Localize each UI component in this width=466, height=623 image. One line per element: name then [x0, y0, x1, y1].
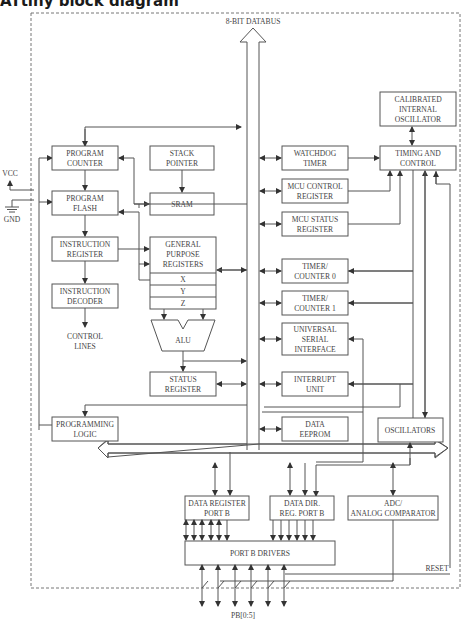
block-label: LOGIC — [73, 430, 96, 439]
block-label: CALIBRATED — [394, 95, 442, 104]
block-label: STACK — [170, 149, 195, 158]
block-label: GENERAL — [165, 240, 201, 249]
port-data-arrows — [186, 520, 313, 540]
block-label: POINTER — [166, 159, 199, 168]
block-label: REGISTER — [67, 250, 104, 259]
block-label: PORT B DRIVERS — [230, 549, 290, 558]
block-label: CONTROL — [400, 159, 436, 168]
block-label: REGISTERS — [163, 260, 204, 269]
block-label: WATCHDOG — [294, 149, 337, 158]
block-label: DATA DIR. — [284, 499, 320, 508]
block-label: REGISTER — [297, 192, 334, 201]
block-label: INTERFACE — [294, 345, 336, 354]
databus-horizontal — [98, 440, 448, 457]
block-label: UNIT — [306, 385, 324, 394]
block-label: FLASH — [73, 204, 98, 213]
block-label: OSCILLATOR — [395, 115, 442, 124]
block-label: ADC/ — [384, 499, 403, 508]
block-label: REG. PORT B — [280, 509, 325, 518]
vcc-pin: VCC — [2, 169, 34, 190]
block-label: LINES — [74, 342, 96, 351]
block-label: COUNTER — [67, 159, 104, 168]
block-label: TIMING AND — [395, 149, 441, 158]
block-label: INTERNAL — [399, 105, 437, 114]
block-label: DATA — [305, 420, 325, 429]
block-label: TIMER/ — [302, 294, 329, 303]
block-label: UNIVERSAL — [293, 325, 336, 334]
block-label: PROGRAM — [66, 149, 104, 158]
block-label: Z — [181, 299, 186, 308]
block-label: PORT B — [204, 509, 230, 518]
block-label: PURPOSE — [166, 250, 200, 259]
block-label: SERIAL — [302, 335, 329, 344]
block-label: REGISTER — [297, 225, 334, 234]
block-label: PROGRAM — [66, 194, 104, 203]
block-label: MCU STATUS — [292, 215, 338, 224]
block-label: GND — [4, 215, 21, 224]
block-diagram: 8-BIT DATABUS VCC GND PROGRAM COUNTER ST… — [0, 0, 466, 623]
gnd-pin: GND — [4, 200, 34, 224]
block-label: REGISTER — [165, 385, 202, 394]
block-label: COUNTER 0 — [294, 272, 336, 281]
block-label: MCU CONTROL — [287, 182, 342, 191]
block-label: TIMER/ — [302, 262, 329, 271]
databus-label: 8-BIT DATABUS — [226, 17, 281, 26]
block-label: INTERRUPT — [294, 375, 336, 384]
block-label: VCC — [2, 169, 18, 178]
block-label: CONTROL — [67, 332, 103, 341]
block-label: X — [180, 275, 186, 284]
port-b-pins — [202, 565, 290, 606]
block-label: ANALOG COMPARATOR — [350, 509, 436, 518]
block-label: DATA REGISTER — [188, 499, 246, 508]
block-label: TIMER — [303, 159, 328, 168]
block-label: Y — [180, 287, 186, 296]
block-label: STATUS — [169, 375, 196, 384]
pins-label: PB[0:5] — [231, 611, 255, 620]
databus-vertical: 8-BIT DATABUS — [226, 17, 281, 450]
block-label: INSTRUCTION — [60, 240, 111, 249]
block-label: PROGRAMMING — [56, 420, 114, 429]
block-label: RESET — [425, 564, 449, 573]
block-label: OSCILLATORS — [385, 426, 436, 435]
block-label: DECODER — [67, 297, 104, 306]
block-label: INSTRUCTION — [60, 287, 111, 296]
block-label: COUNTER 1 — [294, 304, 336, 313]
block-label: ALU — [175, 336, 191, 345]
block-label: EEPROM — [300, 430, 331, 439]
